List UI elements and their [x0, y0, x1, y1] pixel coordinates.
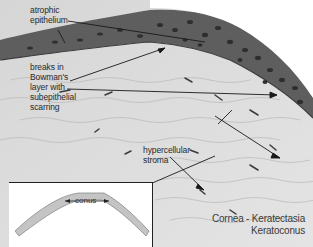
inset-diagram: conus [9, 182, 153, 247]
figure: atrophic epithelium breaks in Bowman's l… [0, 0, 313, 247]
cornea-profile [9, 183, 153, 247]
label-bowman-breaks: breaks in Bowman's layer with subepithel… [30, 62, 76, 112]
label-conus: conus [75, 196, 96, 205]
title-line-2: Keratoconus [251, 225, 305, 236]
label-hypercellular-stroma: hypercellular stroma [143, 145, 190, 165]
label-atrophic-epithelium: atrophic epithelium [30, 5, 68, 25]
title-line-1: Cornea - Keratectasia [212, 213, 305, 224]
figure-title: Cornea - KeratectasiaKeratoconus [212, 213, 305, 237]
